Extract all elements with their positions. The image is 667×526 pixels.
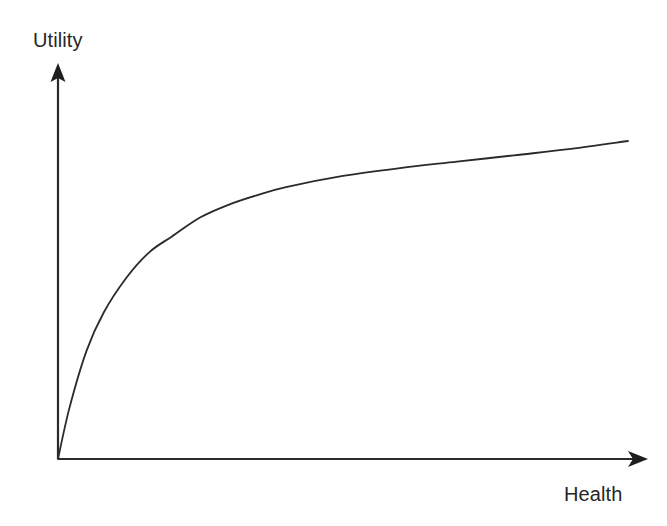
- utility-health-figure: Utility Health: [0, 0, 667, 526]
- utility-curve-line: [58, 141, 628, 459]
- y-axis-label: Utility: [33, 30, 83, 50]
- x-axis-label: Health: [564, 484, 622, 504]
- plot-area: [0, 0, 667, 526]
